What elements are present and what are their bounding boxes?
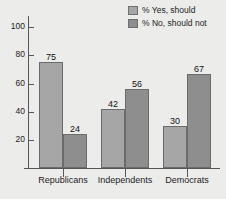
bar: 67 (187, 74, 211, 168)
bar-value-label: 67 (194, 64, 204, 74)
bar-value-label: 75 (46, 52, 56, 62)
y-axis-line (28, 16, 29, 168)
x-axis-category-label: Republicans (38, 175, 88, 186)
y-axis-tick: 20 (29, 140, 34, 141)
bar: 75 (39, 62, 63, 168)
y-axis-tick-label: 40 (16, 106, 25, 117)
y-axis-tick: 40 (29, 112, 34, 113)
x-axis-line (24, 168, 220, 169)
legend-swatch-icon-yes (128, 6, 138, 15)
y-axis-tick: 80 (29, 55, 34, 56)
bar-chart: % Yes, should % No, should not 204060801… (0, 0, 226, 199)
y-axis-tick: 100 (29, 27, 34, 28)
bar-value-label: 24 (70, 124, 80, 134)
y-axis-tick-label: 20 (16, 134, 25, 145)
bar: 56 (125, 89, 149, 168)
plot-area: 20406080100 752442563067 (28, 16, 220, 168)
bar: 42 (101, 109, 125, 168)
x-axis-category-label: Democrats (165, 175, 209, 186)
bar-value-label: 30 (170, 116, 180, 126)
bar: 30 (163, 126, 187, 168)
bar-value-label: 56 (132, 79, 142, 89)
legend-item-yes: % Yes, should (128, 5, 207, 16)
y-axis-tick-label: 60 (16, 78, 25, 89)
y-axis-tick: 60 (29, 84, 34, 85)
x-axis-category-label: Independents (98, 175, 153, 186)
legend-label-yes: % Yes, should (142, 6, 195, 15)
y-axis-tick-label: 80 (16, 49, 25, 60)
bar: 24 (63, 134, 87, 168)
y-axis-tick-label: 100 (11, 21, 25, 32)
bar-value-label: 42 (108, 99, 118, 109)
